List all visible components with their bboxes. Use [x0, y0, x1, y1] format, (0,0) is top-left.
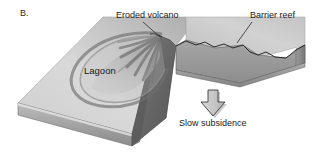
- block-diagram-illustration: [0, 0, 327, 161]
- label-slow-subsidence: Slow subsidence: [179, 119, 247, 128]
- down-arrow-body: [201, 90, 225, 116]
- right-block: [176, 17, 305, 87]
- figure-panel-b: B. Eroded volcano Barrier reef Lagoon Sl…: [0, 0, 327, 161]
- label-eroded-volcano: Eroded volcano: [116, 11, 179, 20]
- panel-letter: B.: [20, 9, 29, 18]
- label-lagoon: Lagoon: [84, 66, 116, 76]
- label-barrier-reef: Barrier reef: [250, 11, 295, 20]
- down-arrow-icon: [201, 90, 227, 118]
